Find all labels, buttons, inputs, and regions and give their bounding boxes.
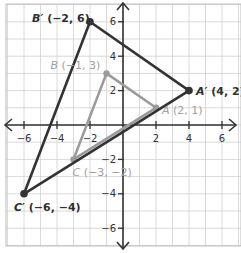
vertex-a-prime [185,87,193,95]
coordinate-plane: −6−4−2246642−2−4−6 A (2, 1)B (−1, 3)C (−… [0,0,241,253]
vertex-c-prime [20,190,28,198]
x-tick-label: −2 [83,133,98,144]
y-tick-label: 4 [110,51,116,62]
x-tick-label: 2 [153,133,159,144]
y-tick-label: −4 [101,188,116,199]
y-tick-label: −6 [101,223,116,234]
x-tick-label: −4 [50,133,65,144]
label-c-prime: C′ (−6, −4) [14,201,81,214]
label-b: B (−1, 3) [51,59,101,72]
label-a: A (2, 1) [161,104,203,117]
y-tick-label: 2 [110,85,116,96]
x-tick-label: 6 [219,133,225,144]
label-b-prime: B′ (−2, 6) [32,12,90,25]
y-tick-label: 6 [110,16,116,27]
y-tick-label: −2 [101,154,116,165]
label-c: C (−3, −2) [73,166,132,179]
coordinate-plane-figure: −6−4−2246642−2−4−6 A (2, 1)B (−1, 3)C (−… [0,0,241,253]
point-labels: A (2, 1)B (−1, 3)C (−3, −2)A′ (4, 2)B′ (… [14,12,241,214]
x-tick-label: 4 [186,133,192,144]
vertex-b [103,70,109,76]
x-tick-label: −6 [17,133,32,144]
label-a-prime: A′ (4, 2) [195,85,241,98]
